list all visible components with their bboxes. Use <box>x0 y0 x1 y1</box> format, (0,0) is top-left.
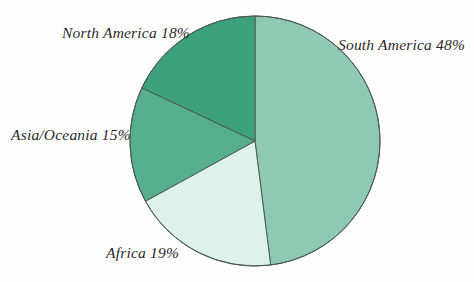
slice-label-africa: Africa 19% <box>106 244 179 261</box>
slice-label-asia-oceania: Asia/Oceania 15% <box>11 126 131 143</box>
pie-chart-figure: South America 48% Africa 19% Asia/Oceani… <box>0 0 474 282</box>
pie-slice-south-america <box>255 16 380 265</box>
slice-label-south-america: South America 48% <box>338 36 465 53</box>
slice-label-north-america: North America 18% <box>62 24 190 41</box>
pie-slices-group <box>130 16 380 266</box>
